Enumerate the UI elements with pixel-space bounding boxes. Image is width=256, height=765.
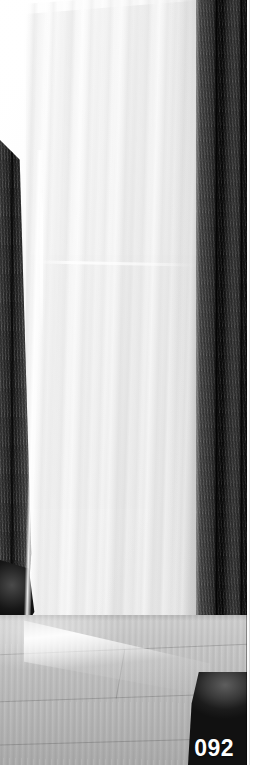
drape-left-fold: [10, 140, 14, 632]
book-page: 092: [0, 0, 256, 765]
page-number: 092: [194, 737, 234, 760]
gutter-rule: [249, 0, 250, 765]
photograph: 092: [0, 0, 247, 765]
